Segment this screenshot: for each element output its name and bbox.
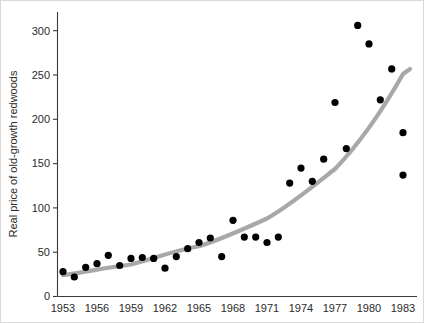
x-tick-label-1968: 1968 [221, 302, 245, 314]
x-tick-group: 1953 1956 1959 1962 1965 1968 1971 1974 … [51, 302, 415, 314]
data-point [184, 245, 191, 252]
data-point [150, 255, 157, 262]
chart-figure: 0 50 100 150 200 250 300 1953 1956 1959 … [0, 0, 424, 323]
y-tick-label-300: 300 [32, 25, 50, 37]
data-point [297, 165, 304, 172]
data-point [93, 260, 100, 267]
x-tick-label-1962: 1962 [153, 302, 177, 314]
x-tick-label-1977: 1977 [323, 302, 347, 314]
data-point [173, 253, 180, 260]
y-tick-label-250: 250 [32, 69, 50, 81]
y-tick-label-0: 0 [44, 290, 50, 302]
data-point [399, 172, 406, 179]
data-point [127, 255, 134, 262]
data-point [229, 217, 236, 224]
y-axis-title: Real price of old-growth redwoods [7, 70, 19, 237]
data-point [275, 234, 282, 241]
data-point [218, 253, 225, 260]
data-point [241, 234, 248, 241]
data-point [82, 264, 89, 271]
data-point [139, 254, 146, 261]
data-point [331, 99, 338, 106]
x-tick-label-1965: 1965 [187, 302, 211, 314]
data-point [286, 180, 293, 187]
data-point [309, 178, 316, 185]
data-point [399, 129, 406, 136]
x-tick-label-1971: 1971 [255, 302, 279, 314]
x-tick-label-1974: 1974 [289, 302, 313, 314]
data-point [116, 262, 123, 269]
data-point [343, 145, 350, 152]
data-point [71, 273, 78, 280]
data-point [354, 22, 361, 29]
data-point [377, 96, 384, 103]
data-point [195, 239, 202, 246]
data-point [388, 65, 395, 72]
y-tick-label-200: 200 [32, 113, 50, 125]
data-point [320, 156, 327, 163]
x-tick-label-1980: 1980 [357, 302, 381, 314]
y-tick-label-150: 150 [32, 157, 50, 169]
data-point [161, 265, 168, 272]
y-tick-label-100: 100 [32, 202, 50, 214]
data-point [252, 234, 259, 241]
data-point [105, 252, 112, 259]
x-tick-label-1956: 1956 [85, 302, 109, 314]
x-tick-label-1953: 1953 [51, 302, 75, 314]
y-tick-label-50: 50 [38, 246, 50, 258]
x-tick-label-1959: 1959 [119, 302, 143, 314]
scatter-plot: 0 50 100 150 200 250 300 1953 1956 1959 … [1, 1, 424, 323]
data-points-group [59, 22, 406, 281]
data-point [365, 40, 372, 47]
trend-curve [63, 69, 410, 275]
data-point [207, 234, 214, 241]
y-tick-group: 0 50 100 150 200 250 300 [32, 25, 58, 303]
data-point [263, 239, 270, 246]
x-tick-label-1983: 1983 [391, 302, 415, 314]
data-point [59, 268, 66, 275]
